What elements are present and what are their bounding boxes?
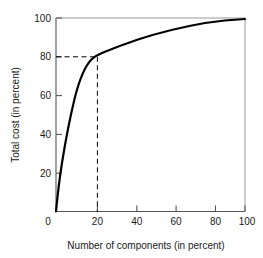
x-tick-label-100: 100 — [239, 216, 256, 227]
chart-figure: 100 80 60 40 20 0 20 40 60 80 100 Total … — [0, 0, 263, 258]
x-axis-title: Number of components (in percent) — [67, 240, 224, 251]
plot-frame — [56, 18, 245, 212]
y-tick-label-20: 20 — [40, 168, 52, 179]
x-tick-label-80: 80 — [210, 216, 222, 227]
x-axis-tick-labels: 0 20 40 60 80 100 — [45, 216, 256, 227]
cost-curve — [56, 19, 245, 212]
x-tick-label-60: 60 — [171, 216, 183, 227]
y-axis-title: Total cost (in percent) — [10, 67, 21, 163]
x-tick-label-20: 20 — [92, 216, 104, 227]
x-tick-label-0: 0 — [45, 216, 51, 227]
y-tick-label-100: 100 — [34, 13, 51, 24]
x-axis-ticks — [97, 206, 245, 212]
x-tick-label-40: 40 — [131, 216, 143, 227]
y-tick-label-80: 80 — [40, 51, 52, 62]
y-axis-ticks — [56, 18, 62, 173]
y-tick-label-60: 60 — [40, 90, 52, 101]
pareto-curve-chart: 100 80 60 40 20 0 20 40 60 80 100 Total … — [0, 0, 263, 258]
y-tick-label-40: 40 — [40, 129, 52, 140]
pareto-guide-lines — [56, 57, 97, 212]
cost-curve-path — [56, 19, 245, 212]
y-axis-tick-labels: 100 80 60 40 20 — [34, 13, 51, 179]
